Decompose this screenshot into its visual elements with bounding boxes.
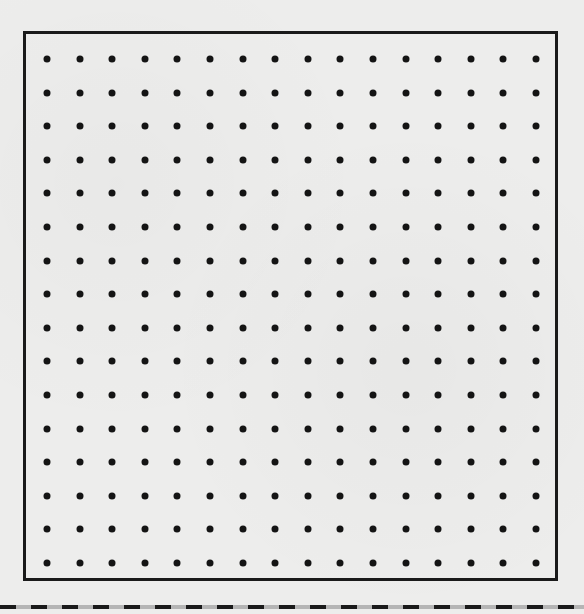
grid-dot (174, 324, 181, 331)
grid-dot (467, 459, 474, 466)
grid-dot (141, 392, 148, 399)
grid-dot (402, 56, 409, 63)
grid-dot (435, 459, 442, 466)
grid-dot (533, 89, 540, 96)
grid-dot (44, 123, 51, 130)
grid-dot (141, 291, 148, 298)
grid-dot (337, 190, 344, 197)
grid-dot (44, 492, 51, 499)
grid-dot (533, 358, 540, 365)
grid-dot (370, 123, 377, 130)
grid-dot (109, 257, 116, 264)
grid-dot (239, 459, 246, 466)
grid-dot (370, 492, 377, 499)
grid-dot (304, 526, 311, 533)
grid-dot (239, 224, 246, 231)
grid-dot (337, 526, 344, 533)
grid-dot (239, 190, 246, 197)
grid-dot (207, 156, 214, 163)
grid-dot (44, 526, 51, 533)
grid-dot (337, 156, 344, 163)
grid-dot (337, 425, 344, 432)
grid-dot (76, 156, 83, 163)
grid-dot (44, 324, 51, 331)
grid-dot (141, 56, 148, 63)
grid-dot (500, 291, 507, 298)
grid-dot (500, 526, 507, 533)
grid-dot (141, 459, 148, 466)
grid-dot (533, 123, 540, 130)
grid-dot (141, 156, 148, 163)
grid-dot (467, 190, 474, 197)
grid-dot (467, 156, 474, 163)
grid-dot (533, 190, 540, 197)
grid-dot (435, 425, 442, 432)
grid-dot (370, 291, 377, 298)
grid-dot (304, 89, 311, 96)
grid-dot (174, 425, 181, 432)
grid-dot (533, 156, 540, 163)
grid-dot (207, 190, 214, 197)
grid-dot (435, 224, 442, 231)
grid-dot (402, 358, 409, 365)
grid-dot (76, 190, 83, 197)
grid-dot (109, 56, 116, 63)
grid-dot (467, 492, 474, 499)
grid-dot (272, 56, 279, 63)
grid-dot (304, 56, 311, 63)
grid-dot (304, 560, 311, 567)
grid-dot (141, 560, 148, 567)
grid-dot (76, 224, 83, 231)
grid-dot (402, 123, 409, 130)
grid-dot (76, 392, 83, 399)
grid-dot (337, 358, 344, 365)
dot-grid-frame (23, 31, 558, 581)
grid-dot (239, 324, 246, 331)
grid-dot (533, 224, 540, 231)
grid-dot (207, 257, 214, 264)
grid-dot (239, 56, 246, 63)
grid-dot (207, 560, 214, 567)
grid-dot (500, 123, 507, 130)
grid-dot (207, 56, 214, 63)
grid-dot (533, 392, 540, 399)
grid-dot (109, 392, 116, 399)
grid-dot (109, 224, 116, 231)
grid-dot (109, 156, 116, 163)
grid-dot (500, 459, 507, 466)
grid-dot (141, 224, 148, 231)
grid-dot (44, 291, 51, 298)
grid-dot (435, 392, 442, 399)
grid-dot (76, 123, 83, 130)
grid-dot (402, 560, 409, 567)
grid-dot (174, 392, 181, 399)
dashed-cut-line (0, 605, 584, 609)
grid-dot (174, 560, 181, 567)
grid-dot (272, 492, 279, 499)
grid-dot (533, 492, 540, 499)
grid-dot (44, 89, 51, 96)
grid-dot (44, 358, 51, 365)
grid-dot (141, 123, 148, 130)
grid-dot (500, 425, 507, 432)
grid-dot (533, 459, 540, 466)
grid-dot (435, 358, 442, 365)
grid-dot (141, 526, 148, 533)
grid-dot (304, 224, 311, 231)
grid-dot (337, 257, 344, 264)
grid-dot (76, 526, 83, 533)
grid-dot (304, 190, 311, 197)
grid-dot (174, 224, 181, 231)
grid-dot (272, 425, 279, 432)
grid-dot (174, 459, 181, 466)
grid-dot (500, 392, 507, 399)
grid-dot (239, 123, 246, 130)
grid-dot (370, 190, 377, 197)
grid-dot (435, 324, 442, 331)
grid-dot (500, 324, 507, 331)
grid-dot (109, 526, 116, 533)
grid-dot (402, 257, 409, 264)
grid-dot (174, 89, 181, 96)
grid-dot (402, 392, 409, 399)
grid-dot (370, 392, 377, 399)
